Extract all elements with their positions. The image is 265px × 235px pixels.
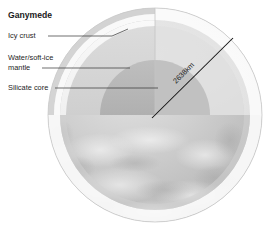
diagram-canvas: Ganymede Icy crust Water/soft-ice mantle… [0, 0, 265, 235]
ganymede-cutaway-diagram: Ganymede Icy crust Water/soft-ice mantle… [0, 0, 265, 235]
label-mantle-text-line2: mantle [8, 63, 30, 72]
page-title: Ganymede [8, 10, 52, 20]
label-mantle-text-line1: Water/soft-ice [8, 53, 53, 62]
label-silicate-core-text: Silicate core [8, 83, 48, 92]
label-icy-crust-text: Icy crust [8, 31, 36, 40]
